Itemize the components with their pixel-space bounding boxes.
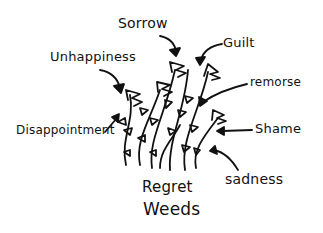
label-sadness: sadness — [225, 172, 283, 186]
arrow-shame — [222, 130, 252, 131]
regret-weeds-diagram: Sorrow Unhappiness Guilt remorse Disappo… — [0, 0, 323, 233]
diagram-title-line2: Weeds — [143, 201, 200, 218]
label-unhappiness: Unhappiness — [50, 50, 136, 63]
arrow-remorse — [203, 84, 247, 102]
diagram-title-line1: Regret — [142, 180, 193, 195]
label-shame: Shame — [255, 122, 301, 135]
label-disappointment: Disappointment — [16, 124, 115, 136]
label-remorse: remorse — [250, 76, 301, 88]
weed-stems — [125, 70, 218, 170]
label-guilt: Guilt — [223, 36, 255, 49]
label-sorrow: Sorrow — [118, 16, 168, 30]
